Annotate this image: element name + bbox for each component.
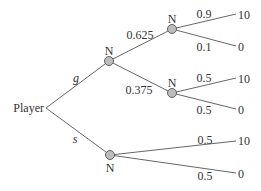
edge-s-05-up <box>110 141 236 155</box>
payoff-s-10: 10 <box>238 134 250 148</box>
payoff-mid-0: 0 <box>238 103 244 117</box>
node-g-label: N <box>105 44 114 58</box>
edge-s-05-down <box>110 155 236 173</box>
payoff-mid-10: 10 <box>238 72 250 86</box>
prob-0375: 0.375 <box>126 83 153 97</box>
prob-01: 0.1 <box>197 40 212 54</box>
node-top-label: N <box>168 12 177 26</box>
prob-0625: 0.625 <box>127 28 154 42</box>
action-g-label: g <box>73 71 79 85</box>
prob-s-down: 0.5 <box>198 169 213 183</box>
chance-node-s <box>106 151 115 160</box>
prob-09: 0.9 <box>197 7 212 21</box>
payoff-top-0: 0 <box>238 40 244 54</box>
payoff-s-0: 0 <box>238 167 244 181</box>
node-mid-label: N <box>168 76 177 90</box>
prob-s-up: 0.5 <box>198 133 213 147</box>
payoff-top-10: 10 <box>238 8 250 22</box>
prob-mid-down: 0.5 <box>197 103 212 117</box>
game-tree-diagram: Player g s N N N N 0.625 0.375 0.9 0.1 1… <box>0 0 261 191</box>
action-s-label: s <box>73 132 78 146</box>
edge-player-s <box>46 108 110 155</box>
player-label: Player <box>13 101 44 115</box>
prob-mid-up: 0.5 <box>197 71 212 85</box>
node-s-label: N <box>106 161 115 175</box>
